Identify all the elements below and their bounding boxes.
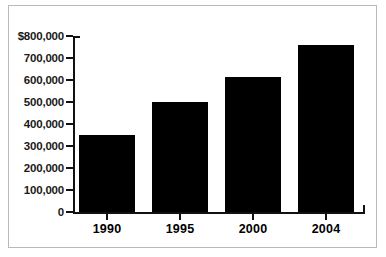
x-axis-line bbox=[73, 212, 365, 214]
y-axis-tick bbox=[66, 167, 73, 169]
y-axis-label: 200,000 bbox=[24, 162, 64, 174]
y-axis-tick bbox=[66, 35, 73, 37]
x-axis-label: 2000 bbox=[239, 222, 268, 236]
y-axis-tick bbox=[66, 211, 73, 213]
y-axis-tick bbox=[66, 57, 73, 59]
y-axis-label: 0 bbox=[58, 206, 64, 218]
y-axis-label: $800,000 bbox=[18, 30, 64, 42]
y-axis-tick bbox=[66, 79, 73, 81]
y-axis-label: 700,000 bbox=[24, 52, 64, 64]
x-axis-tick bbox=[106, 213, 108, 220]
bar bbox=[298, 45, 354, 212]
x-axis-label: 1990 bbox=[93, 222, 122, 236]
y-axis-label: 400,000 bbox=[24, 118, 64, 130]
x-axis-label: 2004 bbox=[312, 222, 341, 236]
chart-frame: $800,000700,000600,000500,000400,000300,… bbox=[8, 5, 377, 248]
plot-area: $800,000700,000600,000500,000400,000300,… bbox=[73, 36, 367, 213]
x-axis-tick bbox=[252, 213, 254, 220]
x-axis-tick bbox=[325, 213, 327, 220]
bar bbox=[225, 77, 281, 212]
y-axis-tick bbox=[66, 145, 73, 147]
x-axis-tick bbox=[179, 213, 181, 220]
x-axis-end-cap bbox=[363, 205, 365, 214]
x-axis-label: 1995 bbox=[166, 222, 195, 236]
y-axis-label: 100,000 bbox=[24, 184, 64, 196]
y-axis-tick bbox=[66, 101, 73, 103]
y-axis-tick bbox=[66, 189, 73, 191]
bar bbox=[79, 135, 135, 212]
y-axis-label: 300,000 bbox=[24, 140, 64, 152]
y-axis-top-cap bbox=[73, 36, 80, 38]
y-axis-tick bbox=[66, 123, 73, 125]
bar bbox=[152, 102, 208, 212]
y-axis-label: 500,000 bbox=[24, 96, 64, 108]
y-axis-label: 600,000 bbox=[24, 74, 64, 86]
y-axis-line bbox=[73, 36, 75, 214]
